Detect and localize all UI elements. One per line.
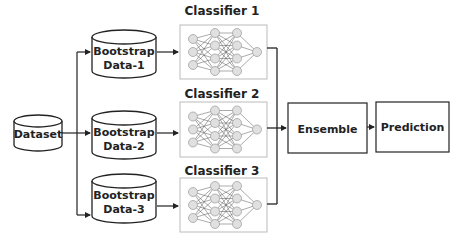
dataset-label: Dataset: [14, 128, 63, 141]
bootstrap-1-line1: Bootstrap: [93, 45, 154, 58]
classifier-merge-connectors: [267, 48, 286, 204]
prediction-box: Prediction: [376, 102, 449, 152]
classifier-2-title: Classifier 2: [185, 87, 260, 101]
bootstrap-3-line1: Bootstrap: [93, 189, 154, 202]
bootstrap-cylinder-1: Bootstrap Data-1: [92, 30, 156, 78]
bootstrap-classifier-connectors: [157, 52, 178, 206]
bootstrap-1-line2: Data-1: [103, 59, 144, 72]
classifier-3-title: Classifier 3: [185, 164, 260, 178]
classifier-2-neural-network-icon: [180, 102, 267, 157]
ensemble-box: Ensemble: [288, 103, 367, 153]
bootstrap-cylinder-2: Bootstrap Data-2: [92, 111, 156, 159]
classifier-1-title: Classifier 1: [185, 4, 260, 18]
bootstrap-cylinder-3: Bootstrap Data-3: [92, 174, 156, 223]
classifier-3-neural-network-icon: [180, 178, 267, 232]
classifier-1-neural-network-icon: [180, 25, 267, 79]
bootstrap-2-line1: Bootstrap: [93, 126, 154, 139]
dataset-branch-connector: [62, 52, 90, 215]
bootstrap-3-line2: Data-3: [103, 203, 144, 216]
ensemble-label: Ensemble: [298, 123, 358, 136]
prediction-label: Prediction: [381, 121, 445, 134]
dataset-cylinder: Dataset: [14, 115, 63, 151]
bootstrap-2-line2: Data-2: [103, 140, 144, 153]
